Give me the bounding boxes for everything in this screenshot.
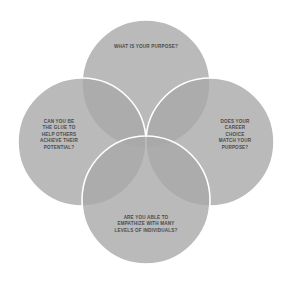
venn-label-right: DOES YOUR CAREER CHOICE MATCH YOUR PURPO… — [196, 119, 274, 151]
venn-label-bottom: ARE YOU ABLE TO EMPATHIZE WITH MANY LEVE… — [84, 215, 208, 234]
venn-label-top: WHAT IS YOUR PURPOSE? — [78, 44, 214, 50]
venn-label-bottom-line-3: LEVELS OF INDIVIDUALS? — [84, 228, 208, 234]
venn-label-left: CAN YOU BE THE GLUE TO HELP OTHERS ACHIE… — [20, 119, 98, 151]
venn-label-top-line-1: WHAT IS YOUR PURPOSE? — [78, 44, 214, 50]
venn-circle-bottom — [82, 136, 210, 264]
venn-label-right-line-5: PURPOSE? — [196, 145, 274, 151]
venn-diagram: WHAT IS YOUR PURPOSE? CAN YOU BE THE GLU… — [0, 0, 292, 284]
venn-label-left-line-5: POTENTIAL? — [20, 145, 98, 151]
